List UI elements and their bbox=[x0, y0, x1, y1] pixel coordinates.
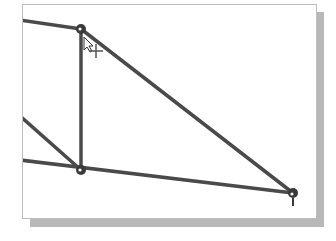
node-bottom-right[interactable] bbox=[288, 188, 298, 206]
node-top[interactable] bbox=[76, 24, 86, 34]
member-bottom[interactable] bbox=[20, 160, 293, 193]
truss-sketch[interactable] bbox=[0, 0, 336, 241]
member-top-left[interactable] bbox=[20, 20, 81, 29]
member-diagonal-right[interactable] bbox=[81, 29, 293, 193]
node-bottom-left[interactable] bbox=[76, 165, 86, 175]
